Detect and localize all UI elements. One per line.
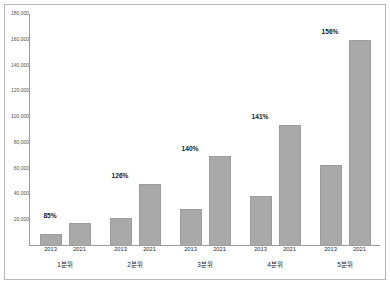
growth-label-3분위: 140% <box>182 146 199 153</box>
bar-group: 85% <box>30 14 100 246</box>
y-axis-tick-labels: 20,00040,00060,00080,000100,000120,00014… <box>4 14 29 246</box>
bar-pair <box>180 14 231 246</box>
bar-groups: 85%126%140%141%156% <box>30 14 380 246</box>
x-axis-label-2분위: 2분위 <box>100 262 170 276</box>
growth-label-5분위: 156% <box>322 29 339 36</box>
growth-label-4분위: 141% <box>252 114 269 121</box>
bar-2021-3분위[interactable] <box>209 156 231 246</box>
bar-pair <box>110 14 161 246</box>
bar-2013-2분위[interactable] <box>110 218 132 246</box>
year-label-group: 20132021 <box>100 247 170 257</box>
bar-2013-1분위[interactable] <box>40 234 62 246</box>
y-axis-tick: 140,000 <box>4 63 29 68</box>
growth-label-1분위: 85% <box>43 213 56 220</box>
growth-label-2분위: 126% <box>112 173 129 180</box>
year-label-2013: 2013 <box>110 247 132 257</box>
bar-column-2013 <box>320 14 342 246</box>
bar-2013-5분위[interactable] <box>320 165 342 246</box>
x-axis-category-labels: 1분위2분위3분위4분위5분위 <box>30 262 380 276</box>
y-axis-tick: 120,000 <box>4 89 29 94</box>
bar-group: 156% <box>310 14 380 246</box>
y-axis-tick: 60,000 <box>4 166 29 171</box>
bar-2013-3분위[interactable] <box>180 209 202 246</box>
bar-2013-4분위[interactable] <box>250 196 272 246</box>
y-axis-tick: 80,000 <box>4 140 29 145</box>
year-label-2021: 2021 <box>209 247 231 257</box>
bar-column-2021 <box>209 14 231 246</box>
y-axis-tick: 20,000 <box>4 218 29 223</box>
bar-column-2013 <box>180 14 202 246</box>
bar-group: 141% <box>240 14 310 246</box>
year-label-group: 20132021 <box>30 247 100 257</box>
year-label-2013: 2013 <box>250 247 272 257</box>
y-axis-tick: 100,000 <box>4 115 29 120</box>
year-label-2013: 2013 <box>40 247 62 257</box>
bar-pair <box>320 14 371 246</box>
y-axis-tick: 180,000 <box>4 11 29 16</box>
x-axis-label-5분위: 5분위 <box>310 262 380 276</box>
bar-column-2013 <box>110 14 132 246</box>
bar-column-2021 <box>349 14 371 246</box>
year-label-2021: 2021 <box>69 247 91 257</box>
x-axis-label-4분위: 4분위 <box>240 262 310 276</box>
bar-chart-figure: 20,00040,00060,00080,000100,000120,00014… <box>0 0 390 284</box>
y-axis-tick: 160,000 <box>4 37 29 42</box>
year-label-2013: 2013 <box>180 247 202 257</box>
bar-2021-4분위[interactable] <box>279 125 301 246</box>
series-year-labels-row: 2013202120132021201320212013202120132021 <box>30 247 380 257</box>
x-axis-label-1분위: 1분위 <box>30 262 100 276</box>
year-label-2021: 2021 <box>349 247 371 257</box>
year-label-2021: 2021 <box>139 247 161 257</box>
bar-2021-2분위[interactable] <box>139 184 161 247</box>
bar-2021-5분위[interactable] <box>349 40 371 246</box>
bar-column-2013 <box>250 14 272 246</box>
bar-column-2021 <box>279 14 301 246</box>
bar-column-2021 <box>69 14 91 246</box>
year-label-group: 20132021 <box>310 247 380 257</box>
year-label-2013: 2013 <box>320 247 342 257</box>
x-axis-label-3분위: 3분위 <box>170 262 240 276</box>
bar-group: 140% <box>170 14 240 246</box>
bar-column-2021 <box>139 14 161 246</box>
y-axis-tick: 40,000 <box>4 192 29 197</box>
year-label-2021: 2021 <box>279 247 301 257</box>
bar-group: 126% <box>100 14 170 246</box>
year-label-group: 20132021 <box>240 247 310 257</box>
bar-pair <box>250 14 301 246</box>
year-label-group: 20132021 <box>170 247 240 257</box>
bar-2021-1분위[interactable] <box>69 223 91 246</box>
